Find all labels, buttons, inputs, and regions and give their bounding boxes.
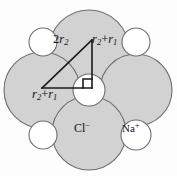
label-vertical-leg-r2-plus-r1: r2+r1 [92,33,117,46]
nacl-packing-figure: 2r2 r2+r1 r2+r1 Cl− Na+ [0,0,177,176]
cation-circle-top-right [122,28,150,56]
cation-circle-bottom-left [29,121,57,149]
packing-diagram-canvas [0,0,177,176]
label-hypotenuse-2r2: 2r2 [53,33,68,46]
label-horizontal-leg-r2-plus-r1: r2+r1 [32,88,57,101]
label-cation-sodium: Na+ [122,121,140,134]
label-anion-chloride: Cl− [74,121,90,134]
